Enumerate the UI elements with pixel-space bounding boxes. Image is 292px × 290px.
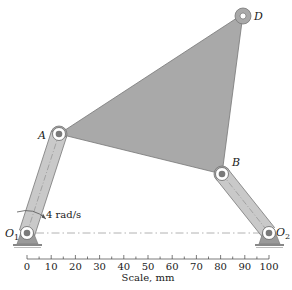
scale-title: Scale, mm <box>122 272 175 283</box>
coupler-link-abd <box>51 8 251 182</box>
scale-tick-label: 100 <box>259 261 278 272</box>
label-point-b: B <box>231 156 240 169</box>
scale-tick-label: 80 <box>214 261 227 272</box>
scale-tick-label: 30 <box>93 261 106 272</box>
scale-tick-label: 60 <box>166 261 179 272</box>
pin-hole-d <box>240 13 246 19</box>
scale-tick-label: 40 <box>117 261 130 272</box>
angular-velocity-label: 4 rad/s <box>46 209 81 220</box>
label-point-o1: O1 <box>5 227 19 242</box>
pin-a <box>53 128 66 141</box>
scale-tick-label: 90 <box>238 261 251 272</box>
crank-link-o1a <box>20 131 67 236</box>
scale-tick-label: 50 <box>142 261 155 272</box>
scale-tick-label: 20 <box>69 261 82 272</box>
scale-tick-label: 70 <box>190 261 203 272</box>
label-point-o2: O2 <box>276 226 290 241</box>
scale-bar: 0102030405060708090100 Scale, mm <box>24 255 279 283</box>
scale-ticks <box>27 255 269 259</box>
scale-tick-labels: 0102030405060708090100 <box>24 261 279 272</box>
label-point-a: A <box>37 129 46 142</box>
linkage-diagram: A B D O1 O2 4 rad/s 01020304050607080901… <box>0 0 292 290</box>
scale-tick-label: 0 <box>24 261 30 272</box>
pin-b <box>216 168 229 181</box>
scale-tick-label: 10 <box>45 261 58 272</box>
label-point-d: D <box>253 10 263 23</box>
